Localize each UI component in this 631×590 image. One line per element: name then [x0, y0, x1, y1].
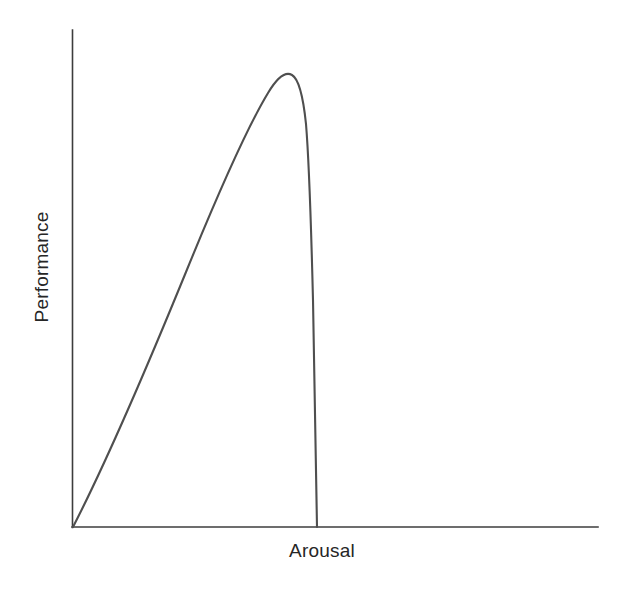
- chart-plot-area: [0, 0, 631, 590]
- chart-figure: Performance Arousal: [0, 0, 631, 590]
- performance-curve: [73, 74, 317, 527]
- x-axis-label: Arousal: [289, 540, 355, 562]
- y-axis-label: Performance: [31, 212, 53, 323]
